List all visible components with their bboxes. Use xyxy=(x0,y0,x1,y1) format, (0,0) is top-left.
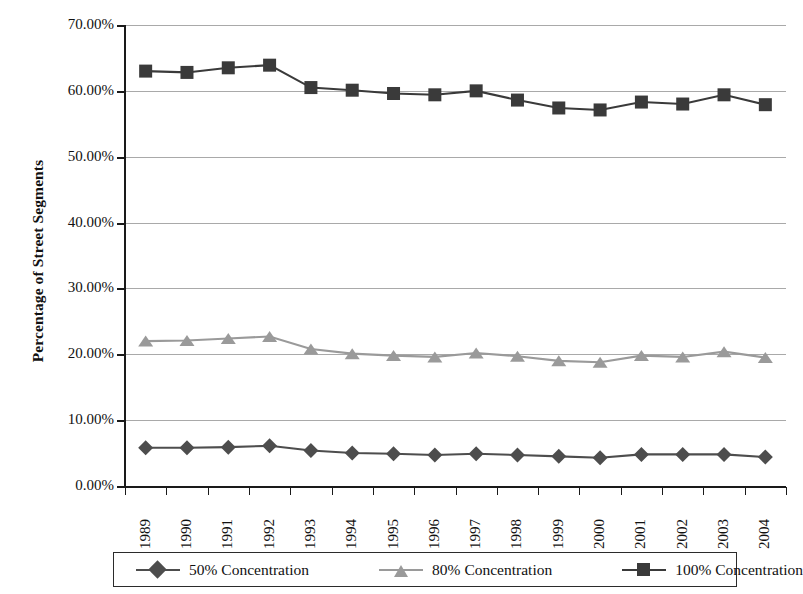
x-axis-tick-label: 2003 xyxy=(715,499,733,549)
x-axis-tick-label: 2004 xyxy=(756,499,774,549)
diamond-marker xyxy=(138,440,153,455)
x-axis-tick xyxy=(208,487,209,495)
square-marker xyxy=(304,81,317,94)
x-axis-tick xyxy=(497,487,498,495)
x-axis-tick xyxy=(166,487,167,495)
diamond-marker xyxy=(262,438,277,453)
series-line xyxy=(146,337,766,363)
x-axis-tick-label: 1993 xyxy=(302,499,320,549)
x-axis-tick xyxy=(703,487,704,495)
square-marker xyxy=(222,61,235,74)
x-axis-tick-label: 1998 xyxy=(508,499,526,549)
triangle-marker xyxy=(303,344,318,355)
triangle-marker xyxy=(394,565,408,577)
gridline xyxy=(125,420,786,421)
x-axis-tick xyxy=(373,487,374,495)
gridline xyxy=(125,354,786,355)
diamond-marker xyxy=(386,446,401,461)
legend-marker-sample xyxy=(622,562,666,578)
square-marker xyxy=(759,98,772,111)
x-axis-tick-label: 1992 xyxy=(261,499,279,549)
legend-item: 100% Concentration xyxy=(622,553,803,586)
diamond-marker xyxy=(427,448,442,463)
series-line xyxy=(146,65,766,110)
diamond-marker xyxy=(634,447,649,462)
x-axis-tick xyxy=(332,487,333,495)
diamond-marker xyxy=(469,446,484,461)
x-axis-tick-label: 1996 xyxy=(426,499,444,549)
x-axis-tick-label: 1995 xyxy=(385,499,403,549)
square-marker xyxy=(594,103,607,116)
chart-legend: 50% Concentration80% Concentration100% C… xyxy=(113,552,737,587)
square-marker xyxy=(511,94,524,107)
legend-item: 80% Concentration xyxy=(379,553,552,586)
x-axis-tick xyxy=(662,487,663,495)
x-axis-tick-label: 2002 xyxy=(674,499,692,549)
triangle-marker xyxy=(386,350,401,361)
triangle-marker xyxy=(634,350,649,361)
y-axis-tick-label: 30.00% xyxy=(28,279,114,296)
gridline xyxy=(125,157,786,158)
series-triangle xyxy=(138,331,773,368)
series-square xyxy=(139,59,772,117)
x-axis-tick-label: 2000 xyxy=(591,499,609,549)
x-axis-tick-label: 1997 xyxy=(467,499,485,549)
legend-label: 50% Concentration xyxy=(189,561,309,579)
x-axis-tick xyxy=(786,487,787,495)
legend-item: 50% Concentration xyxy=(136,553,309,586)
square-marker xyxy=(637,563,650,576)
legend-marker-sample xyxy=(379,562,423,578)
triangle-marker xyxy=(221,333,236,344)
legend-label: 80% Concentration xyxy=(432,561,552,579)
x-axis-tick xyxy=(621,487,622,495)
diamond-marker xyxy=(510,448,525,463)
diamond-marker xyxy=(179,440,194,455)
series-diamond xyxy=(138,438,773,465)
square-marker xyxy=(263,59,276,72)
y-axis-title: Percentage of Street Segments xyxy=(29,61,47,461)
square-marker xyxy=(387,87,400,100)
x-axis-tick-label: 1990 xyxy=(178,499,196,549)
x-axis-tick-label: 1989 xyxy=(137,499,155,549)
square-marker xyxy=(635,96,648,109)
gridline xyxy=(125,223,786,224)
triangle-marker xyxy=(262,331,277,342)
triangle-marker xyxy=(179,335,194,346)
triangle-marker xyxy=(510,351,525,362)
x-axis-tick xyxy=(579,487,580,495)
legend-label: 100% Concentration xyxy=(675,561,803,579)
diamond-marker xyxy=(551,449,566,464)
square-marker xyxy=(139,65,152,78)
x-axis-tick xyxy=(745,487,746,495)
y-axis-tick-label: 40.00% xyxy=(28,214,114,231)
x-axis-tick-label: 1994 xyxy=(343,499,361,549)
gridline xyxy=(125,91,786,92)
square-marker xyxy=(180,66,193,79)
square-marker xyxy=(676,98,689,111)
y-axis-tick-label: 0.00% xyxy=(28,477,114,494)
triangle-marker xyxy=(469,347,484,358)
triangle-marker xyxy=(717,346,732,357)
diamond-marker xyxy=(345,446,360,461)
x-axis-tick xyxy=(249,487,250,495)
x-axis-tick xyxy=(414,487,415,495)
gridline xyxy=(125,288,786,289)
diamond-marker xyxy=(303,443,318,458)
y-axis-tick-label: 60.00% xyxy=(28,82,114,99)
diamond-marker xyxy=(675,447,690,462)
x-axis-tick-label: 1999 xyxy=(550,499,568,549)
diamond-marker xyxy=(148,560,166,578)
y-axis-tick-label: 50.00% xyxy=(28,148,114,165)
diamond-marker xyxy=(593,450,608,465)
triangle-marker xyxy=(593,357,608,368)
series-line xyxy=(146,446,766,458)
y-axis-line xyxy=(124,25,126,487)
square-marker xyxy=(552,101,565,114)
y-axis-tick-label: 10.00% xyxy=(28,411,114,428)
x-axis-tick xyxy=(456,487,457,495)
diamond-marker xyxy=(717,447,732,462)
diamond-marker xyxy=(221,440,236,455)
y-axis-tick-label: 20.00% xyxy=(28,345,114,362)
gridline xyxy=(125,25,786,26)
